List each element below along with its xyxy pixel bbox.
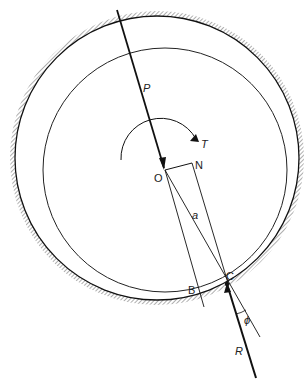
journal-bearing-diagram: P T O N a B C ϕ R [0, 0, 307, 388]
label-N: N [195, 159, 203, 171]
contact-point-C [225, 282, 229, 286]
label-C: C [226, 270, 234, 282]
label-a: a [192, 209, 198, 221]
label-B: B [188, 284, 195, 296]
label-O: O [154, 172, 163, 184]
label-P: P [143, 82, 151, 94]
bearing-hatch [0, 0, 307, 388]
label-R: R [235, 345, 243, 357]
label-phi: ϕ [244, 314, 250, 326]
